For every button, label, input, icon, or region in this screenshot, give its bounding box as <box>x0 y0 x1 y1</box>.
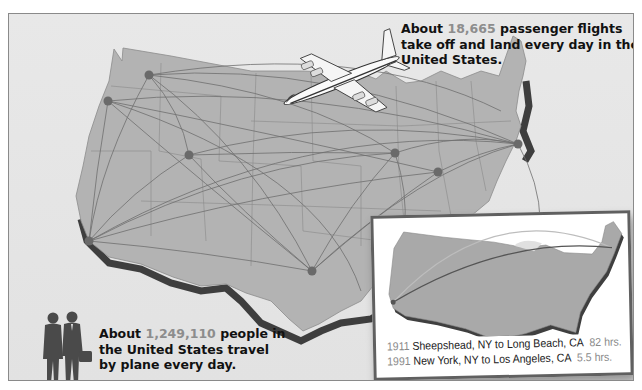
route-duration: 82 hrs. <box>589 335 622 351</box>
flights-callout: About 18,665 passenger flights take off … <box>401 21 634 68</box>
travelers-silhouette-icon <box>37 311 97 381</box>
route-comparison-inset: 1911 Sheepshead, NY to Long Beach, CA 82… <box>370 210 633 380</box>
travelers-prefix: About <box>99 326 145 341</box>
flights-count: 18,665 <box>447 21 495 36</box>
flights-prefix: About <box>401 21 447 36</box>
legend-row-1991: 1991 New York, NY to Los Angeles, CA 5.5… <box>384 350 605 370</box>
travelers-callout: About 1,249,110 people in the United Sta… <box>99 326 289 373</box>
route-legend: 1911 Sheepshead, NY to Long Beach, CA 82… <box>384 335 605 370</box>
route-label: New York, NY to Los Angeles, CA <box>413 351 571 369</box>
infographic-frame: About 18,665 passenger flights take off … <box>8 13 634 381</box>
route-year: 1911 <box>387 339 410 354</box>
inset-us-map <box>373 213 629 338</box>
route-year: 1991 <box>387 354 411 369</box>
route-duration: 5.5 hrs. <box>577 350 613 366</box>
travelers-count: 1,249,110 <box>145 326 215 341</box>
